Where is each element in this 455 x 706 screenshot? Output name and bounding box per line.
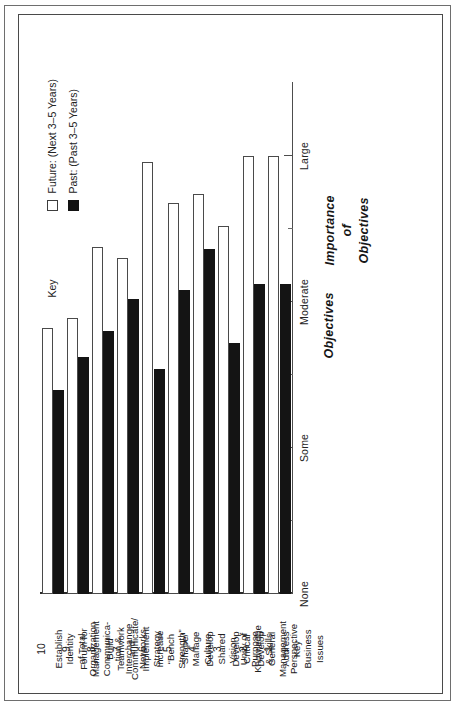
bar-past-5 [179, 290, 190, 594]
value-tick-label: Moderate [298, 279, 310, 325]
value-tick-major [284, 155, 293, 156]
category-text: EstablishIdentityof TotalOrganization [53, 606, 98, 690]
bar-past-8 [103, 331, 114, 594]
rotated-chart-container: NoneSomeModerateLarge 1AddressKeyBusines… [22, 18, 440, 690]
legend-item-past[interactable]: Past: (Past 3–5 Years) [67, 89, 79, 211]
bar-future-6 [142, 162, 153, 594]
legend-swatch-past-icon [68, 200, 79, 211]
value-tick-label: Large [298, 142, 310, 170]
value-axis-line [292, 82, 293, 594]
y-axis-title: ImportanceofObjectives [322, 170, 373, 290]
bar-past-9 [78, 357, 89, 594]
legend-label: Future: (Next 3–5 Years) [46, 79, 58, 193]
bar-future-8 [92, 247, 103, 594]
bar-past-4 [204, 249, 215, 594]
bar-past-10 [53, 390, 64, 594]
bar-past-2 [254, 284, 265, 594]
bar-past-7 [128, 299, 139, 594]
bar-future-7 [117, 258, 128, 594]
legend-key-title: Key [46, 279, 58, 297]
legend-item-future[interactable]: Future: (Next 3–5 Years) [46, 79, 58, 211]
bar-past-1 [280, 284, 291, 594]
value-tick-minor [288, 228, 293, 229]
bar-future-10 [42, 328, 53, 594]
bar-future-4 [193, 194, 204, 594]
bar-future-3 [218, 226, 229, 594]
chart-canvas: NoneSomeModerateLarge 1AddressKeyBusines… [22, 18, 440, 690]
value-tick-label: Some [298, 434, 310, 462]
category-number: 10 [36, 606, 47, 690]
bar-past-6 [154, 369, 165, 594]
category-label-10: 10EstablishIdentityof TotalOrganization [36, 606, 98, 690]
bar-future-1 [268, 156, 279, 594]
bar-past-3 [229, 343, 240, 594]
x-axis-title: Objectives [322, 292, 336, 358]
bar-future-5 [168, 203, 179, 594]
legend-label: Past: (Past 3–5 Years) [67, 89, 79, 193]
bar-future-9 [67, 318, 78, 594]
legend-swatch-future-icon [47, 200, 58, 211]
value-tick-label: None [298, 581, 310, 607]
chart-page: NoneSomeModerateLarge 1AddressKeyBusines… [0, 0, 455, 706]
bar-future-2 [243, 156, 254, 594]
